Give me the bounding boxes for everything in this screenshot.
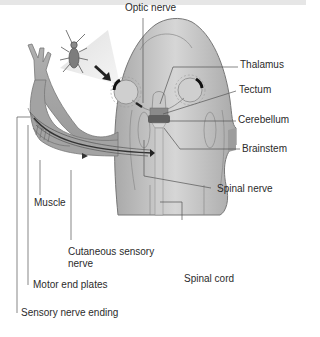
label-cutaneous-sensory-nerve: Cutaneous sensory nerve [68, 246, 154, 270]
label-sensory-nerve-ending: Sensory nerve ending [21, 307, 118, 319]
label-thalamus: Thalamus [240, 59, 284, 71]
label-cerebellum: Cerebellum [238, 114, 289, 126]
label-brainstem: Brainstem [242, 143, 287, 155]
label-cutaneous-line1: Cutaneous sensory [68, 246, 154, 257]
label-spinal-nerve: Spinal nerve [217, 183, 273, 195]
label-tectum: Tectum [239, 84, 271, 96]
label-optic-nerve: Optic nerve [125, 2, 176, 14]
label-cutaneous-line2: nerve [68, 258, 93, 269]
label-spinal-cord: Spinal cord [184, 273, 234, 285]
label-muscle: Muscle [34, 197, 66, 209]
label-motor-end-plates: Motor end plates [33, 279, 108, 291]
